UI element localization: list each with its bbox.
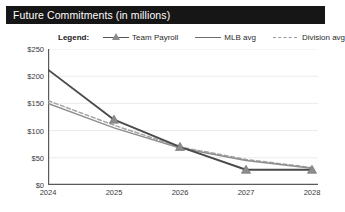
legend-dashed-line-icon: [273, 33, 299, 42]
legend-label-team-payroll: Team Payroll: [132, 33, 178, 42]
y-axis-tick-label: $200: [27, 72, 44, 81]
x-axis-tick-label: 2028: [304, 188, 321, 197]
legend-title: Legend:: [58, 33, 89, 42]
legend-label-mlb-avg: MLB avg: [224, 33, 256, 42]
y-axis-tick-label: $50: [31, 153, 44, 162]
y-axis-tick-label: $150: [27, 99, 44, 108]
x-axis-tick-label: 2024: [40, 188, 57, 197]
legend-solid-line-icon: [195, 33, 221, 42]
x-axis-tick-label: 2027: [238, 188, 255, 197]
legend-marker-triangle-icon: [103, 33, 129, 42]
chart-legend: Legend: Team Payroll MLB avg Division av…: [58, 31, 345, 43]
x-axis: 20242025202620272028: [48, 188, 318, 200]
series-line-mlb-avg: [48, 103, 312, 168]
plot-area: [48, 49, 318, 185]
y-axis: $0$50$100$150$200$250: [0, 49, 44, 185]
y-axis-tick-label: $100: [27, 126, 44, 135]
x-axis-tick-label: 2025: [106, 188, 123, 197]
legend-item-mlb-avg: MLB avg: [195, 33, 256, 42]
series-line-team-payroll: [48, 70, 312, 170]
y-axis-tick-label: $250: [27, 45, 44, 54]
legend-item-team-payroll: Team Payroll: [103, 33, 178, 42]
page-title: Future Commitments (in millions): [13, 9, 170, 21]
chart-svg: [48, 49, 318, 185]
x-axis-tick-label: 2026: [172, 188, 189, 197]
legend-label-division-avg: Division avg: [302, 33, 345, 42]
chart-title-bar: Future Commitments (in millions): [6, 6, 325, 24]
legend-item-division-avg: Division avg: [273, 33, 345, 42]
